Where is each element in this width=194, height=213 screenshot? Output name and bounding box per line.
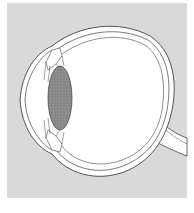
- eye-diagram: [0, 0, 194, 213]
- lens: [48, 66, 72, 130]
- eye-diagram-svg: [0, 0, 194, 213]
